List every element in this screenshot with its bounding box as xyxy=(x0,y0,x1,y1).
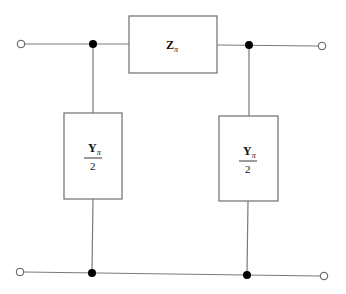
right-shunt-wire-bottom xyxy=(247,201,248,275)
node-top-right xyxy=(245,41,253,49)
terminal-output-bottom xyxy=(320,272,328,280)
left-shunt-admittance-box xyxy=(64,113,122,199)
right-shunt-admittance-box xyxy=(219,116,278,201)
right-shunt-denominator: 2 xyxy=(245,163,251,175)
left-shunt-denominator: 2 xyxy=(90,160,96,172)
node-top-left xyxy=(89,40,97,48)
node-bottom-right xyxy=(243,271,251,279)
terminal-output-top xyxy=(318,42,326,50)
terminal-input-bottom xyxy=(16,268,24,276)
top-wire-right xyxy=(217,45,318,46)
bottom-wire xyxy=(24,272,320,276)
node-bottom-left xyxy=(88,269,96,277)
left-shunt-wire-bottom xyxy=(92,199,93,273)
terminal-input-top xyxy=(17,40,25,48)
pi-circuit-diagram: Zπ Yπ 2 Yπ 2 xyxy=(0,0,346,294)
